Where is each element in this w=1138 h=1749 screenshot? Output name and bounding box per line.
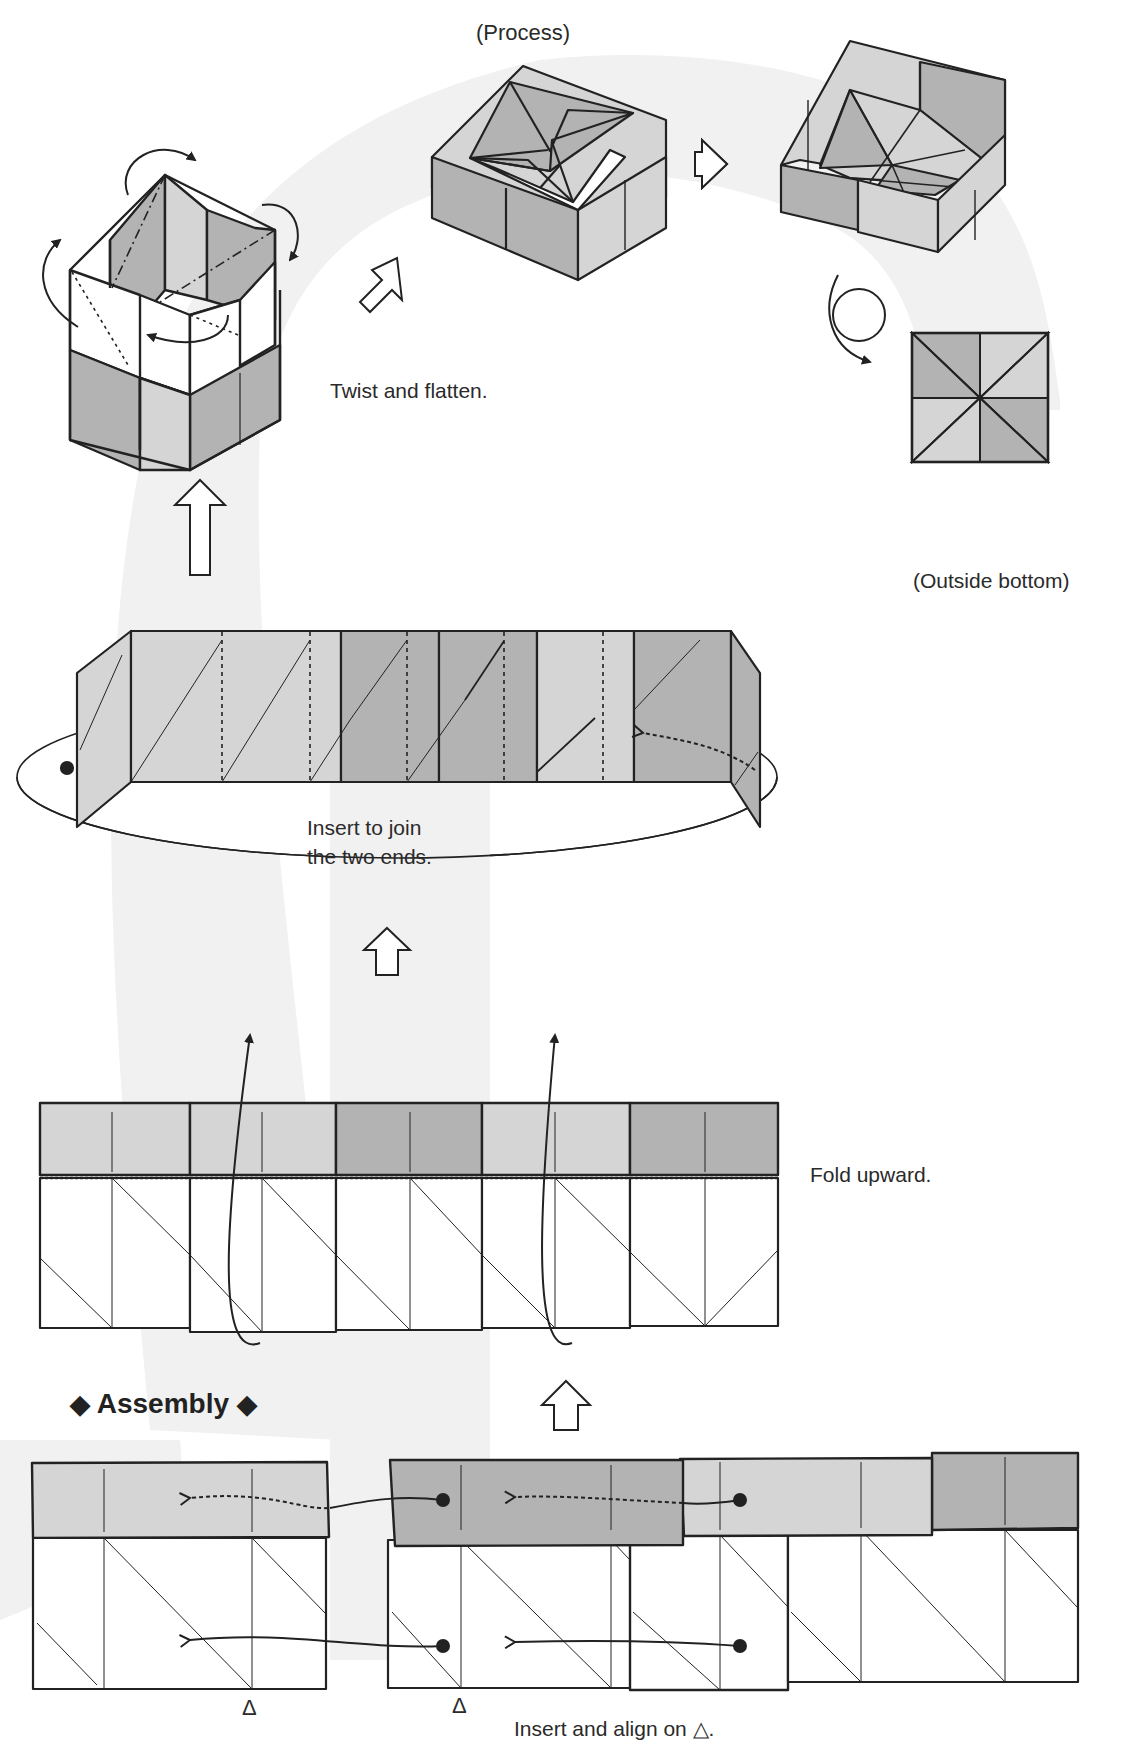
step-fold-upward-strip — [40, 1103, 778, 1332]
insertion-dot-icon — [734, 1640, 746, 1652]
twist-and-flatten-label: Twist and flatten. — [330, 378, 488, 403]
align-marker-1: Δ — [242, 1695, 257, 1721]
section-title: ◆ Assembly ◆ — [70, 1388, 257, 1420]
process-label: (Process) — [476, 20, 570, 46]
section-title-text: Assembly — [97, 1388, 229, 1419]
insertion-dot-icon — [437, 1640, 449, 1652]
insert-join-line2: the two ends. — [307, 844, 432, 869]
insert-join-line1: Insert to join — [307, 815, 421, 840]
hollow-arrow-up-icon-3 — [542, 1381, 590, 1430]
origami-instruction-page: (Process) Twist and flatten. (Outside bo… — [0, 0, 1138, 1749]
outside-bottom-label: (Outside bottom) — [913, 568, 1069, 593]
diamond-icon-right: ◆ — [237, 1389, 257, 1419]
insertion-dot-icon — [437, 1494, 449, 1506]
turn-over-arrow-icon — [829, 275, 885, 362]
step-assembly — [32, 1453, 1078, 1690]
diamond-icon-left: ◆ — [70, 1389, 90, 1419]
fold-upward-label: Fold upward. — [810, 1162, 931, 1187]
insert-align-label: Insert and align on △. — [514, 1716, 714, 1741]
hollow-arrow-diagonal-icon — [360, 258, 402, 312]
outside-bottom-square — [912, 333, 1048, 462]
diagram-canvas — [0, 0, 1138, 1749]
align-marker-2: Δ — [452, 1693, 467, 1719]
insertion-dot-icon — [734, 1494, 746, 1506]
